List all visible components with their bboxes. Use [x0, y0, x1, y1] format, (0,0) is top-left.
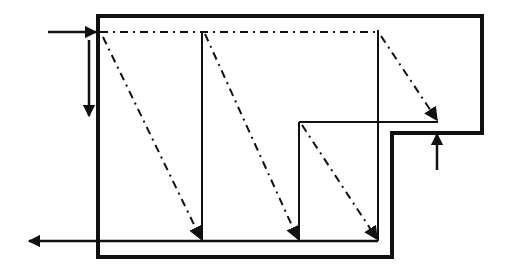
flow-diagram: [0, 0, 508, 274]
background: [0, 0, 508, 274]
